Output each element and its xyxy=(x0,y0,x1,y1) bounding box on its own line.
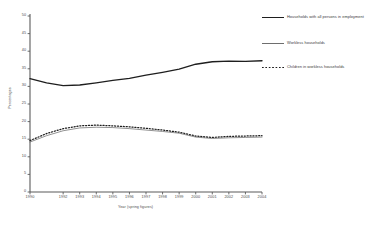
y-tick-label: 40 xyxy=(12,49,26,53)
y-tick-label: 5 xyxy=(12,172,26,176)
legend-label: Children in workless households xyxy=(287,64,344,69)
y-axis-title: Percentages xyxy=(8,70,12,126)
legend-item-households-employment: Households with all persons in employmen… xyxy=(262,14,378,21)
legend-swatch-dotted-icon xyxy=(262,64,284,71)
plot-area xyxy=(0,0,268,226)
legend-swatch-solid-thick-icon xyxy=(262,14,284,21)
y-tick-label: 35 xyxy=(12,67,26,71)
legend-label: Households with all persons in employmen… xyxy=(287,14,364,19)
y-tick-label: 0 xyxy=(12,190,26,194)
chart-container: Percentages Year (spring figures) 051015… xyxy=(0,0,378,226)
legend-swatch-solid-thin-icon xyxy=(262,40,284,47)
y-tick-label: 10 xyxy=(12,155,26,159)
y-tick-label: 20 xyxy=(12,120,26,124)
y-tick-label: 45 xyxy=(12,32,26,36)
legend-item-children-workless: Children in workless households xyxy=(262,64,378,71)
y-tick-label: 30 xyxy=(12,84,26,88)
y-tick-label: 25 xyxy=(12,102,26,106)
legend-item-workless-households: Workless households xyxy=(262,40,378,47)
legend-label: Workless households xyxy=(287,40,325,45)
y-tick-label: 50 xyxy=(12,14,26,18)
x-tick-label: 1990 xyxy=(20,196,40,200)
chart-plot-svg xyxy=(0,0,268,226)
x-tick-label: 2004 xyxy=(252,196,272,200)
y-tick-label: 15 xyxy=(12,137,26,141)
x-axis-title: Year (spring figures) xyxy=(118,205,153,209)
